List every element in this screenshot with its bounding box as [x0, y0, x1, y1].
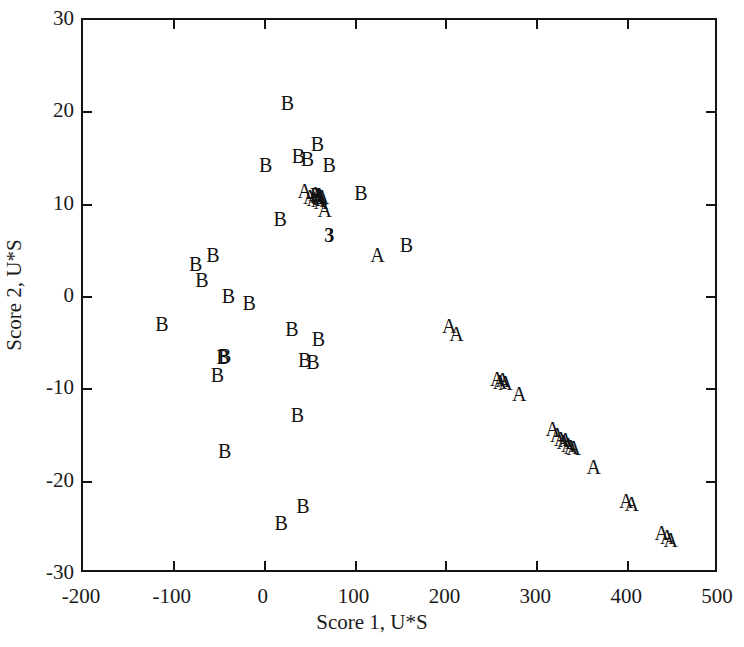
y-tick-label: -10 [30, 377, 74, 398]
data-point-B: B [281, 93, 294, 113]
x-tick-bottom [627, 561, 629, 570]
data-point-B: B [259, 155, 272, 175]
y-tick-right [706, 481, 715, 483]
y-tick-right [706, 296, 715, 298]
x-tick-label: -200 [62, 586, 101, 607]
x-tick-label: 500 [701, 586, 733, 607]
data-point-B: B [243, 293, 256, 313]
x-tick-top [445, 20, 447, 29]
x-tick-top [536, 20, 538, 29]
data-point-B: B [301, 149, 314, 169]
x-tick-top [173, 20, 175, 29]
data-point-B: B [312, 329, 325, 349]
data-point-B: B [306, 352, 319, 372]
data-point-B: B [218, 346, 231, 366]
y-tick-label: -20 [30, 469, 74, 490]
x-tick-top [264, 20, 266, 29]
y-tick-left [83, 111, 92, 113]
x-tick-bottom [264, 561, 266, 570]
scatter-plot-figure: Score 2, U*S -30-20-100102030 AAAAAAAAAA… [0, 0, 744, 647]
plot-area: AAAAAAAAAAAAAAAAAAAAAAAAAAAAAAAAABBBBBBB… [81, 18, 717, 572]
x-tick-label: 400 [610, 586, 642, 607]
data-point-A: A [586, 457, 600, 477]
x-tick-label: 100 [338, 586, 370, 607]
data-point-B: B [273, 209, 286, 229]
x-tick-top [355, 20, 357, 29]
data-point-A: A [566, 438, 580, 458]
plot-annotation: 3 [324, 225, 334, 245]
y-tick-label: 20 [30, 100, 74, 121]
data-point-B: B [195, 270, 208, 290]
x-tick-bottom [445, 561, 447, 570]
data-point-B: B [310, 185, 323, 205]
data-point-B: B [354, 183, 367, 203]
data-point-B: B [291, 405, 304, 425]
x-tick-label: 300 [520, 586, 552, 607]
data-point-B: B [274, 513, 287, 533]
y-tick-left [83, 481, 92, 483]
x-tick-bottom [355, 561, 357, 570]
data-point-A: A [498, 373, 512, 393]
x-tick-bottom [536, 561, 538, 570]
data-point-B: B [296, 496, 309, 516]
y-tick-right [706, 204, 715, 206]
data-point-A: A [512, 384, 526, 404]
x-tick-top [627, 20, 629, 29]
y-tick-right [706, 111, 715, 113]
x-axis-title: Score 1, U*S [0, 612, 744, 633]
y-tick-right [706, 388, 715, 390]
y-tick-label: 10 [30, 192, 74, 213]
x-tick-bottom [173, 561, 175, 570]
data-point-B: B [285, 319, 298, 339]
data-point-B: B [155, 314, 168, 334]
y-tick-label: -30 [30, 562, 74, 583]
x-tick-label: 200 [429, 586, 461, 607]
y-tick-left [83, 204, 92, 206]
data-point-B: B [218, 441, 231, 461]
data-point-B: B [206, 245, 219, 265]
data-point-B: B [400, 235, 413, 255]
y-axis-title-container: Score 2, U*S [0, 0, 28, 590]
data-point-A: A [664, 530, 678, 550]
data-point-B: B [211, 365, 224, 385]
x-tick-label: 0 [257, 586, 268, 607]
x-tick-label: -100 [153, 586, 192, 607]
data-point-B: B [222, 286, 235, 306]
y-tick-left [83, 296, 92, 298]
y-tick-left [83, 388, 92, 390]
data-point-B: B [323, 155, 336, 175]
data-point-A: A [625, 494, 639, 514]
y-tick-label: 30 [30, 8, 74, 29]
data-point-A: A [449, 324, 463, 344]
y-tick-label: 0 [30, 285, 74, 306]
y-axis-title: Score 2, U*S [4, 239, 25, 350]
data-point-A: A [370, 245, 384, 265]
